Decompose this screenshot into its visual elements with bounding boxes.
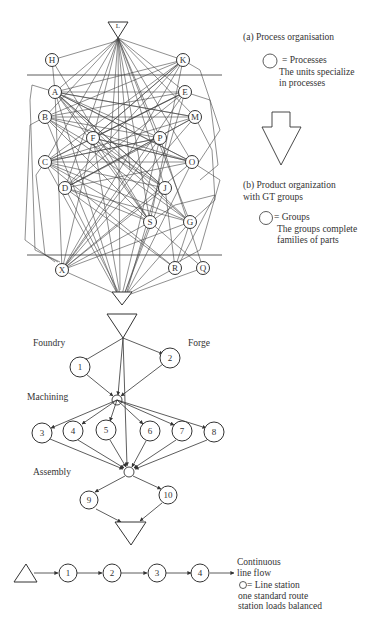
panel-a-legend: = Processes The units specialize in proc… (282, 55, 354, 90)
panel-b-title-line2: with GT groups (243, 192, 336, 204)
process-network: L H K A E B M F P C O D J S G X R Q (25, 22, 222, 305)
process-node-m: M (189, 111, 202, 124)
stage-label-machining: Machining (27, 392, 68, 403)
process-node-s: S (144, 216, 157, 229)
group-node-7: 7 (172, 421, 192, 441)
process-flow-diagram: L H K A E B M F P C O D J S G X R Q (0, 0, 369, 628)
sink-triangle-a (112, 292, 132, 305)
line-station-2: 2 (103, 564, 121, 582)
panel-b-legend-line3: families of parts (277, 235, 357, 247)
panel-c-legend-line2: one standard route (238, 591, 322, 602)
process-node-b: B (39, 111, 52, 124)
svg-text:D: D (62, 183, 69, 193)
process-node-d: D (59, 182, 72, 195)
svg-text:4: 4 (198, 568, 203, 578)
down-arrow-icon (262, 112, 301, 165)
svg-text:E: E (182, 87, 188, 97)
group-node-5: 5 (96, 420, 116, 440)
svg-text:3: 3 (40, 428, 45, 438)
group-node-4: 4 (63, 421, 83, 441)
stage-label-assembly: Assembly (33, 467, 71, 478)
svg-text:R: R (172, 263, 178, 273)
line-station-4: 4 (191, 564, 209, 582)
process-node-e: E (179, 86, 192, 99)
legend-process-circle-icon (263, 54, 277, 68)
svg-text:6: 6 (148, 426, 153, 436)
stage-label-foundry: Foundry (33, 338, 65, 349)
svg-text:M: M (191, 112, 199, 122)
svg-text:F: F (90, 133, 95, 143)
svg-text:8: 8 (212, 427, 217, 437)
svg-text:L: L (116, 22, 120, 30)
stage-label-forge: Forge (188, 338, 210, 349)
process-node-f: F (87, 132, 100, 145)
panel-b-title-line1: (b) Product organization (243, 180, 336, 192)
group-node-1: 1 (70, 357, 90, 377)
group-node-2: 2 (160, 348, 180, 368)
line-station-3: 3 (148, 564, 166, 582)
svg-text:B: B (42, 112, 48, 122)
panel-a-legend-line3: in processes (279, 78, 354, 90)
process-node-c: C (39, 156, 52, 169)
svg-text:7: 7 (180, 426, 185, 436)
panel-c-legend: = Line station one standard route statio… (238, 580, 322, 612)
line-source-triangle (14, 564, 37, 582)
svg-text:1: 1 (78, 362, 83, 372)
svg-text:9: 9 (87, 495, 92, 505)
source-triangle-b (107, 314, 137, 338)
svg-text:P: P (157, 133, 162, 143)
svg-text:G: G (187, 217, 194, 227)
panel-a-title: (a) Process organisation (243, 32, 334, 43)
svg-text:J: J (163, 183, 167, 193)
panel-c-title: Continuous line flow (237, 557, 281, 578)
group-node-9: 9 (80, 491, 98, 509)
panel-a-legend-line2: The units specialize (279, 67, 354, 79)
process-node-j: J (159, 182, 172, 195)
panel-b-legend-line1: = Groups (274, 212, 357, 224)
process-node-h: H (46, 54, 59, 67)
process-node-q: Q (197, 262, 210, 275)
process-node-o: O (186, 156, 199, 169)
group-node-6: 6 (140, 421, 160, 441)
assembly-hub (124, 467, 134, 477)
process-node-k: K (177, 54, 190, 67)
group-node-3: 3 (32, 423, 52, 443)
svg-text:S: S (147, 217, 152, 227)
svg-text:2: 2 (110, 568, 115, 578)
process-node-a: A (49, 86, 62, 99)
process-node-r: R (169, 262, 182, 275)
svg-text:C: C (42, 157, 48, 167)
group-node-10: 10 (159, 486, 177, 504)
svg-text:O: O (189, 157, 196, 167)
panel-c-legend-line3: station loads balanced (238, 601, 322, 612)
svg-text:A: A (52, 87, 59, 97)
svg-text:Q: Q (200, 263, 207, 273)
legend-group-circle-icon (260, 212, 273, 225)
line-flow: 1 2 3 4 (14, 564, 247, 589)
panel-c-legend-line1: = Line station (247, 580, 322, 591)
process-node-x: X (56, 264, 69, 277)
group-node-8: 8 (204, 422, 224, 442)
sink-triangle-b (115, 522, 146, 545)
panel-c-title-line2: line flow (237, 568, 281, 579)
process-node-p: P (154, 132, 167, 145)
svg-text:X: X (59, 265, 66, 275)
panel-b-legend: = Groups The groups complete families of… (274, 212, 357, 247)
svg-text:5: 5 (104, 425, 109, 435)
line-station-1: 1 (59, 564, 77, 582)
svg-text:4: 4 (71, 426, 76, 436)
process-node-g: G (184, 216, 197, 229)
svg-text:10: 10 (164, 490, 174, 500)
panel-b-title: (b) Product organization with GT groups (243, 180, 336, 203)
panel-c-title-line1: Continuous (237, 557, 281, 568)
panel-b-legend-line2: The groups complete (277, 224, 357, 236)
svg-text:2: 2 (168, 353, 173, 363)
svg-text:3: 3 (155, 568, 160, 578)
svg-text:K: K (180, 55, 187, 65)
svg-text:H: H (49, 55, 56, 65)
svg-text:1: 1 (66, 568, 71, 578)
panel-a-legend-line1: = Processes (282, 55, 354, 67)
